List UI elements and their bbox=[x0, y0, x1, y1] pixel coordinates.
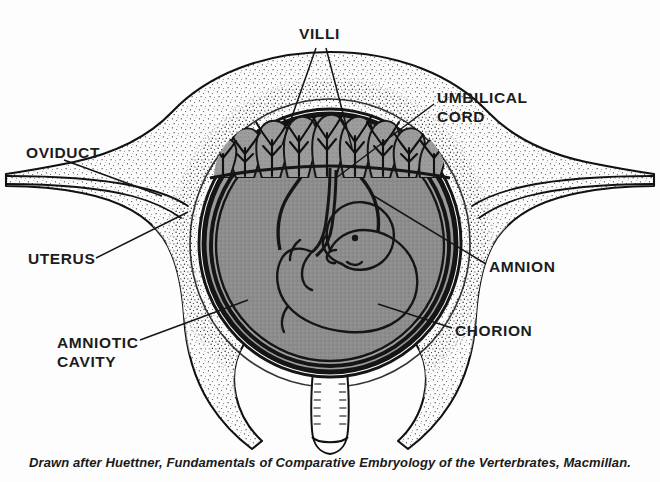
label-chorion: CHORION bbox=[455, 321, 532, 340]
label-uterus: UTERUS bbox=[28, 249, 95, 268]
fetus-eye bbox=[352, 235, 358, 241]
uterus-diagram bbox=[0, 0, 660, 482]
label-villi: VILLI bbox=[299, 24, 340, 43]
label-oviduct: OVIDUCT bbox=[26, 143, 100, 162]
label-amnion: AMNION bbox=[489, 257, 555, 276]
label-amniotic-cavity: AMNIOTIC CAVITY bbox=[57, 333, 138, 371]
embryology-figure: VILLI UMBILICAL CORD OVIDUCT UTERUS AMNI… bbox=[0, 0, 660, 482]
figure-caption: Drawn after Huettner, Fundamentals of Co… bbox=[0, 455, 660, 470]
label-umbilical-cord: UMBILICAL CORD bbox=[437, 88, 528, 126]
